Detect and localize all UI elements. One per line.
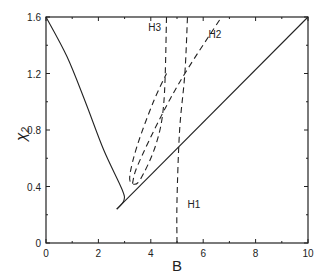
chart: 024681000.40.81.21.6 H1H2H3 B χ2 — [0, 0, 325, 280]
plot-lines — [46, 17, 308, 243]
y-tick-label: 1.6 — [27, 12, 41, 23]
series-H3 — [130, 17, 167, 184]
y-tick-label: 0.4 — [27, 182, 41, 193]
x-tick-label: 4 — [148, 248, 154, 259]
tick-labels: 024681000.40.81.21.6 — [27, 12, 314, 259]
annotation-h2: H2 — [208, 29, 221, 40]
y-tick-label: 0 — [35, 238, 41, 249]
x-tick-label: 6 — [200, 248, 206, 259]
series-boundary-right — [117, 17, 308, 209]
annotation-h1: H1 — [187, 199, 200, 210]
y-axis-label: χ2 — [12, 127, 31, 143]
x-tick-label: 0 — [43, 248, 49, 259]
x-axis-label: B — [172, 257, 182, 274]
x-tick-label: 2 — [96, 248, 102, 259]
y-axis-label-main: χ2 — [12, 127, 31, 143]
x-tick-label: 10 — [302, 248, 314, 259]
series-H2 — [132, 17, 221, 184]
series-H1 — [177, 17, 188, 243]
y-tick-label: 1.2 — [27, 69, 41, 80]
annotations: H1H2H3 — [148, 22, 221, 210]
x-tick-label: 8 — [253, 248, 259, 259]
annotation-h3: H3 — [148, 22, 161, 33]
series-boundary-left — [46, 17, 125, 209]
